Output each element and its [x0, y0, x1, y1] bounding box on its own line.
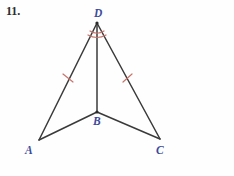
vertex-dot-B	[95, 110, 98, 113]
geometry-diagram	[0, 0, 234, 176]
segment-BA	[39, 112, 97, 140]
segment-DC	[97, 23, 160, 139]
geometry-figure-panel: 11. D B A C	[0, 0, 234, 176]
segment-DA	[39, 23, 97, 140]
vertex-label-B: B	[93, 116, 101, 128]
vertex-label-A: A	[25, 145, 33, 157]
segment-BC	[97, 112, 160, 139]
vertex-label-D: D	[94, 8, 102, 20]
congruence-tick-DC	[123, 74, 132, 82]
vertex-label-C: C	[156, 145, 164, 157]
vertex-dot-D	[95, 21, 98, 24]
